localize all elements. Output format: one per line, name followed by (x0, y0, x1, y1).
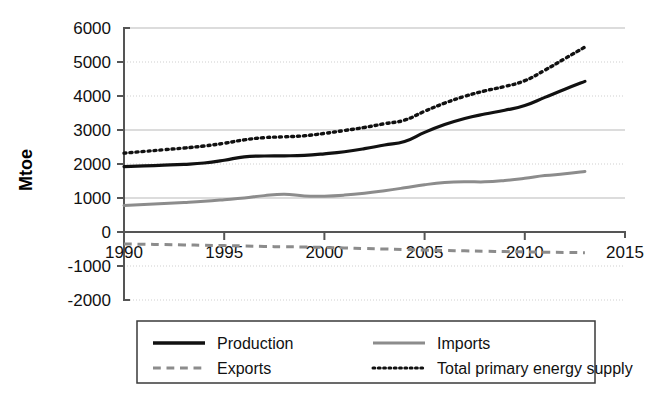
chart-legend[interactable]: ProductionImportsExportsTotal primary en… (137, 321, 633, 383)
y-tick-label-2000: 2000 (73, 155, 111, 174)
y-tick-label-3000: 3000 (73, 121, 111, 140)
x-tick-label-2000: 2000 (305, 243, 343, 262)
legend-label: Production (217, 335, 294, 352)
legend-label: Exports (217, 360, 271, 377)
x-tick-label-2005: 2005 (406, 243, 444, 262)
x-tick-label-2015: 2015 (606, 243, 644, 262)
line-chart-figure: 6000500040003000200010000-1000-2000 1990… (0, 0, 661, 397)
x-tick-label-1990: 1990 (105, 243, 143, 262)
y-axis-tick-labels: 6000500040003000200010000-1000-2000 (68, 19, 111, 310)
legend-label: Imports (437, 335, 490, 352)
x-tick-label-2010: 2010 (506, 243, 544, 262)
y-tick-label-5000: 5000 (73, 53, 111, 72)
chart-container: 6000500040003000200010000-1000-2000 1990… (0, 0, 661, 397)
legend-label: Total primary energy supply (437, 360, 633, 377)
y-tick-label-4000: 4000 (73, 87, 111, 106)
y-tick-label-1000: 1000 (73, 189, 111, 208)
y-tick-label-6000: 6000 (73, 19, 111, 38)
y-tick-label-0: 0 (102, 223, 111, 242)
y-axis-title: Mtoe (16, 149, 36, 191)
y-tick-label--2000: -2000 (68, 291, 111, 310)
